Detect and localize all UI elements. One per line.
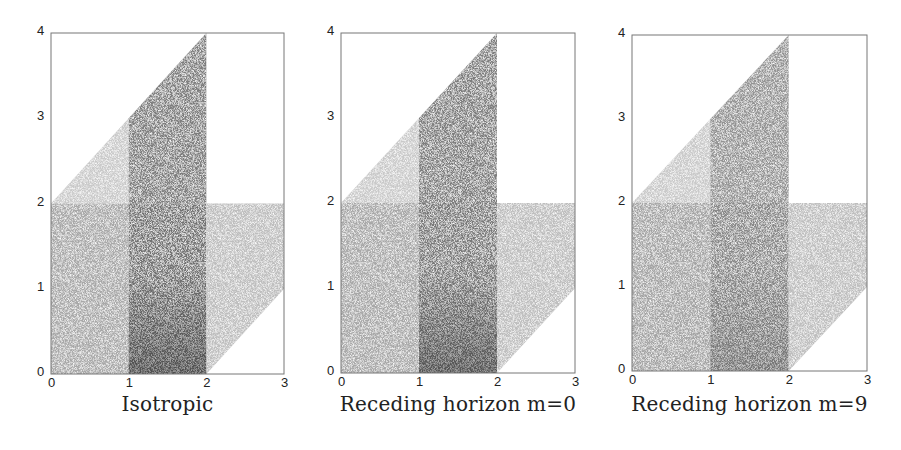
- plot-area: [51, 33, 284, 374]
- figure-canvas: [0, 0, 901, 450]
- y-tick-label: 1: [618, 278, 625, 291]
- density-region: [51, 118, 129, 203]
- density-region: [419, 33, 497, 203]
- y-tick-label: 4: [37, 24, 44, 37]
- density-region: [206, 204, 284, 375]
- plot-area: [632, 35, 867, 371]
- plot-area: [341, 33, 575, 373]
- y-tick-label: 3: [327, 109, 334, 122]
- y-tick-label: 2: [327, 194, 334, 207]
- density-region: [497, 203, 575, 373]
- x-tick-label: 1: [707, 373, 714, 386]
- y-tick-label: 0: [37, 365, 44, 378]
- density-region: [341, 118, 419, 203]
- y-tick-label: 1: [37, 280, 44, 293]
- density-region: [341, 203, 419, 373]
- panel-caption-receding-m0: Receding horizon m=0: [308, 392, 608, 416]
- x-tick-label: 2: [494, 375, 501, 388]
- x-tick-label: 0: [338, 375, 345, 388]
- x-tick-label: 0: [48, 376, 55, 389]
- y-tick-label: 4: [618, 26, 625, 39]
- x-tick-label: 0: [629, 373, 636, 386]
- y-tick-label: 1: [327, 279, 334, 292]
- density-region: [632, 203, 710, 371]
- y-tick-label: 3: [618, 110, 625, 123]
- y-tick-label: 2: [37, 195, 44, 208]
- x-tick-label: 1: [416, 375, 423, 388]
- panel-caption-isotropic: Isotropic: [18, 392, 318, 416]
- x-tick-label: 1: [126, 376, 133, 389]
- y-tick-label: 3: [37, 109, 44, 122]
- y-tick-label: 2: [618, 194, 625, 207]
- density-region: [51, 204, 129, 375]
- density-region: [789, 203, 867, 371]
- density-region: [632, 119, 710, 203]
- x-tick-label: 2: [786, 373, 793, 386]
- density-region: [710, 35, 788, 203]
- y-tick-label: 0: [327, 364, 334, 377]
- x-tick-label: 3: [281, 376, 288, 389]
- y-tick-label: 0: [618, 362, 625, 375]
- x-tick-label: 2: [203, 376, 210, 389]
- panel-caption-receding-m9: Receding horizon m=9: [600, 392, 900, 416]
- x-tick-label: 3: [572, 375, 579, 388]
- density-region: [129, 33, 207, 204]
- y-tick-label: 4: [327, 24, 334, 37]
- x-tick-label: 3: [864, 373, 871, 386]
